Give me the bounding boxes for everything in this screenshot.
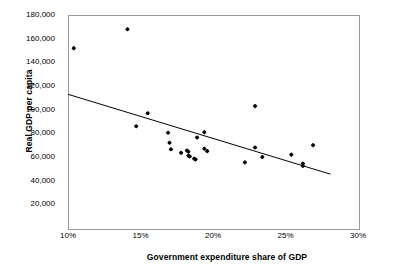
y-tick-label: 80,000 <box>0 129 55 137</box>
y-tick-label: 20,000 <box>0 200 55 208</box>
data-point-core <box>206 150 209 153</box>
data-point-core <box>261 156 264 159</box>
data-point-core <box>203 131 206 134</box>
plot-series-layer <box>68 15 359 229</box>
data-point-core <box>203 147 206 150</box>
scatter-chart: Real GDP per capita Government expenditu… <box>0 0 402 272</box>
data-point-core <box>189 155 192 158</box>
data-point-core <box>187 150 190 153</box>
data-point-core <box>126 28 129 31</box>
data-point-core <box>244 161 247 164</box>
x-tick-label: 30% <box>338 232 378 240</box>
data-point-core <box>73 47 76 50</box>
data-point-core <box>302 165 305 168</box>
x-axis-title: Government expenditure share of GDP <box>62 252 392 262</box>
x-tick-label: 15% <box>121 232 161 240</box>
data-point-core <box>167 131 170 134</box>
y-tick-label: 180,000 <box>0 11 55 19</box>
x-tick-label: 25% <box>266 232 306 240</box>
trend-line <box>68 94 330 174</box>
data-point-core <box>135 125 138 128</box>
x-tick-label: 10% <box>48 232 88 240</box>
data-point-core <box>254 146 257 149</box>
data-point-core <box>194 158 197 161</box>
data-point-core <box>254 105 257 108</box>
data-point-core <box>180 152 183 155</box>
data-point-core <box>170 148 173 151</box>
y-tick-label: 140,000 <box>0 58 55 66</box>
y-tick-label: 100,000 <box>0 106 55 114</box>
data-point-core <box>196 136 199 139</box>
y-tick-label: 40,000 <box>0 177 55 185</box>
data-point-core <box>168 142 171 145</box>
data-point-core <box>290 153 293 156</box>
x-tick-label: 20% <box>193 232 233 240</box>
y-tick-label: 60,000 <box>0 153 55 161</box>
data-point-core <box>312 144 315 147</box>
y-tick-label: 120,000 <box>0 82 55 90</box>
data-point-core <box>146 112 149 115</box>
y-tick-label: 160,000 <box>0 35 55 43</box>
